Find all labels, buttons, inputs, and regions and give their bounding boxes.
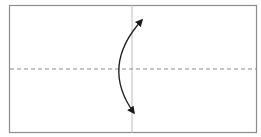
diagram-svg xyxy=(0,0,261,137)
origami-diagram xyxy=(0,0,261,137)
